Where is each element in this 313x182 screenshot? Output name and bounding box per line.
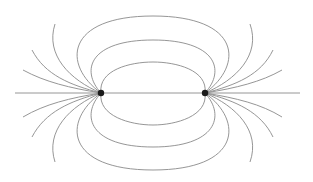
inner-loop-top	[101, 62, 205, 93]
left-charge	[98, 90, 104, 96]
dipole-field-diagram	[0, 0, 313, 182]
outer-loop-bottom	[77, 93, 229, 170]
field-lines-svg	[0, 0, 313, 182]
right-charge	[202, 90, 208, 96]
middle-loop-top	[91, 40, 215, 93]
outer-loop-top	[77, 16, 229, 93]
inner-loop-bottom	[101, 93, 205, 125]
middle-loop-bottom	[91, 93, 215, 147]
